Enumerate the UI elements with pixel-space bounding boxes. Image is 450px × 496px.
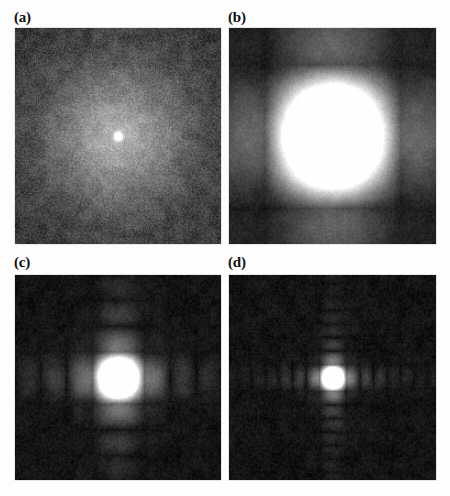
panel-image-b	[229, 28, 436, 244]
panel-image-a	[15, 28, 221, 244]
panel-canvas-b	[229, 28, 436, 244]
panel-image-c	[15, 275, 221, 480]
panel-label-b: (b)	[228, 10, 246, 25]
panel-label-d: (d)	[228, 255, 246, 270]
figure-container: (a) (b) (c) (d)	[0, 0, 450, 496]
panel-image-d	[229, 275, 436, 480]
panel-label-a: (a)	[14, 10, 31, 25]
panel-canvas-c	[15, 275, 221, 480]
panel-label-c: (c)	[14, 255, 30, 270]
panel-canvas-a	[15, 28, 221, 244]
panel-canvas-d	[229, 275, 436, 480]
